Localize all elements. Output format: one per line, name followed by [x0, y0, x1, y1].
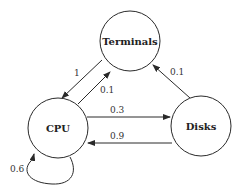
- edge-terminals-to-cpu: [62, 60, 102, 98]
- state-diagram: Terminals CPU Disks 1 0.1 0.3 0.9 0.1 0.…: [0, 0, 242, 196]
- edge-label-cpu-self: 0.6: [10, 164, 25, 174]
- node-cpu: CPU: [28, 98, 88, 158]
- edge-label-cpu-disks: 0.3: [110, 105, 125, 115]
- node-label: Terminals: [102, 36, 158, 47]
- node-label: Disks: [186, 121, 217, 132]
- edge-cpu-self-loop: [27, 154, 73, 184]
- edge-label-terminals-cpu: 1: [74, 68, 80, 78]
- node-label: CPU: [46, 123, 70, 134]
- node-disks: Disks: [171, 96, 231, 156]
- edge-label-disks-terminals: 0.1: [170, 67, 184, 77]
- edge-label-disks-cpu: 0.9: [110, 131, 125, 141]
- node-terminals: Terminals: [100, 11, 160, 71]
- edge-label-cpu-terminals: 0.1: [100, 85, 114, 95]
